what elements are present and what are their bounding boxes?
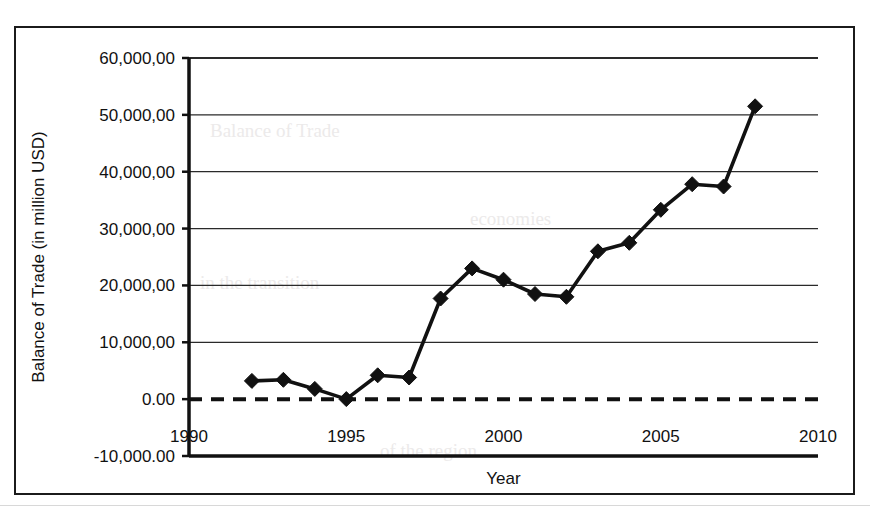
data-point-marker[interactable] bbox=[307, 381, 322, 396]
x-tick-label: 2010 bbox=[799, 427, 837, 446]
y-tick-label: -10,000.00 bbox=[94, 447, 175, 466]
y-tick-label: 60,000,00 bbox=[99, 49, 175, 68]
x-axis-title: Year bbox=[486, 469, 521, 488]
y-axis-title: Balance of Trade (in million USD) bbox=[29, 131, 48, 382]
x-tick-label: 1990 bbox=[170, 427, 208, 446]
data-line bbox=[252, 106, 755, 399]
data-point-marker[interactable] bbox=[402, 370, 417, 385]
y-tick-label: 40,000,00 bbox=[99, 163, 175, 182]
y-tick-label: 30,000,00 bbox=[99, 220, 175, 239]
data-point-marker[interactable] bbox=[528, 287, 543, 302]
x-tick-label: 2000 bbox=[485, 427, 523, 446]
data-point-marker[interactable] bbox=[276, 372, 291, 387]
scanned-page: Balance of Trade in the transition econo… bbox=[0, 0, 870, 522]
y-tick-label: 20,000,00 bbox=[99, 276, 175, 295]
x-tick-label: 1995 bbox=[327, 427, 365, 446]
y-tick-label: 0.00 bbox=[142, 390, 175, 409]
line-chart: -10,000.000.0010,000,0020,000,0030,000,0… bbox=[0, 0, 870, 522]
data-point-marker[interactable] bbox=[716, 179, 731, 194]
x-tick-label: 2005 bbox=[642, 427, 680, 446]
caption-rule bbox=[0, 505, 870, 506]
data-point-marker[interactable] bbox=[244, 373, 259, 388]
data-point-marker[interactable] bbox=[748, 99, 763, 114]
y-tick-label: 10,000,00 bbox=[99, 333, 175, 352]
y-tick-label: 50,000,00 bbox=[99, 106, 175, 125]
